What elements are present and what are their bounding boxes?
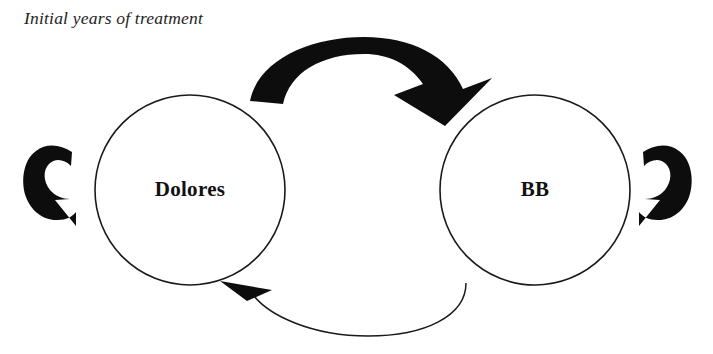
node-bb-label: BB <box>521 177 550 201</box>
thick-self-loop-right <box>639 145 692 226</box>
edge-bb-to-dolores <box>220 281 466 336</box>
node-dolores-label: Dolores <box>155 177 226 201</box>
edge-dolores-to-bb <box>250 37 492 126</box>
node-bb[interactable]: BB <box>440 95 630 285</box>
figure-caption: Initial years of treatment <box>23 8 204 28</box>
thin-arrowhead-bottom <box>220 281 272 301</box>
node-dolores[interactable]: Dolores <box>95 95 285 285</box>
relationship-diagram: Initial years of treatment Dolores BB <box>0 0 713 354</box>
thin-curve-bottom <box>251 283 466 336</box>
edge-bb-self-loop <box>639 145 692 226</box>
edge-dolores-self-loop <box>23 145 76 226</box>
diagram-canvas: Initial years of treatment Dolores BB <box>0 0 713 354</box>
thick-self-loop-left <box>23 145 76 226</box>
thick-curved-arrow-top <box>250 37 492 126</box>
